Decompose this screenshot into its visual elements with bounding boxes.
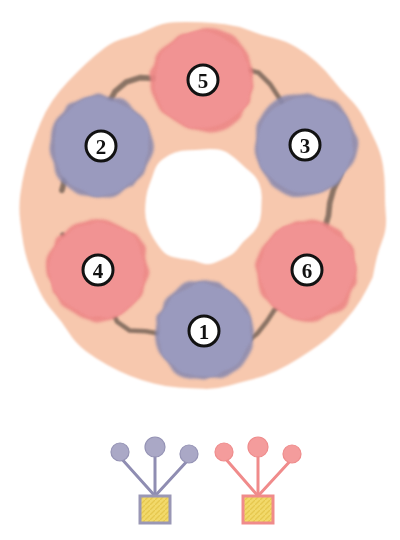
legend-circle <box>283 445 301 463</box>
legend-stalk <box>258 459 292 496</box>
lobe-number-badge: 2 <box>86 131 116 161</box>
lobe-number-badge: 5 <box>188 65 218 95</box>
lobe-number-badge: 1 <box>189 316 219 346</box>
legend-symbol-salmon[interactable] <box>215 437 301 523</box>
diagram-canvas: 123456 <box>0 0 400 540</box>
badge-label: 1 <box>199 320 210 344</box>
legend-box <box>243 496 273 523</box>
lobe-number-badge: 3 <box>290 130 320 160</box>
figure-root: 123456 <box>0 0 400 540</box>
badge-label: 2 <box>96 135 107 159</box>
badge-label: 5 <box>198 69 209 93</box>
legend-circle <box>145 437 165 457</box>
badge-label: 6 <box>302 259 313 283</box>
legend-symbol-purple[interactable] <box>111 437 198 523</box>
lobe-number-badge: 6 <box>292 255 322 285</box>
legend-stalk <box>155 459 189 496</box>
badge-label: 4 <box>93 259 104 283</box>
legend-circle <box>215 443 233 461</box>
lobe-number-badge: 4 <box>83 255 113 285</box>
legend <box>111 437 301 523</box>
legend-circle <box>111 443 129 461</box>
legend-circle <box>248 437 268 457</box>
legend-box <box>140 496 170 523</box>
legend-circle <box>180 445 198 463</box>
legend-stalk <box>120 457 155 496</box>
legend-stalk <box>224 457 258 496</box>
badge-label: 3 <box>300 134 311 158</box>
